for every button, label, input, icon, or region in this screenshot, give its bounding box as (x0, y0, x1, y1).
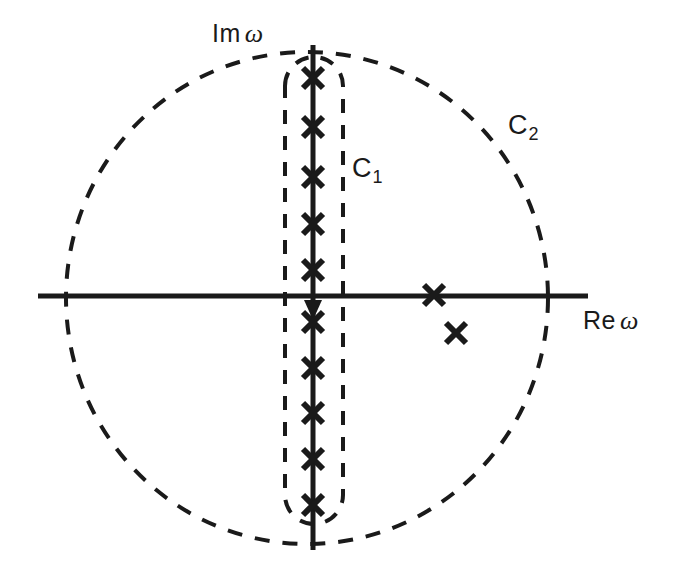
omega-symbol-imaginary: ω (241, 19, 264, 48)
imaginary-axis-label-text: Im (212, 19, 241, 47)
inner-contour-label-subscript: 1 (372, 167, 383, 187)
outer-contour-label-text: C (508, 110, 528, 140)
real-axis-label-text: Re (583, 306, 616, 334)
contour-diagram: Imω Reω C1 C2 (0, 0, 679, 583)
pole-marker-off-axis-lower (446, 323, 466, 343)
outer-contour-label-subscript: 2 (528, 124, 539, 144)
outer-contour-label: C2 (508, 110, 539, 145)
omega-symbol-real: ω (616, 306, 639, 335)
contour-plot-svg (0, 0, 679, 583)
imaginary-axis-label: Imω (212, 19, 264, 49)
real-axis-label: Reω (583, 306, 639, 336)
inner-contour-label-text: C (352, 153, 372, 183)
inner-contour-label: C1 (352, 153, 383, 188)
